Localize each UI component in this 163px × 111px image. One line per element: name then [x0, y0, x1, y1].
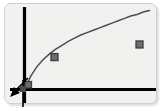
- figure-frame: [4, 3, 157, 104]
- plot-canvas: [5, 4, 157, 104]
- data-marker-mid: [51, 54, 58, 61]
- plot-svg: [5, 4, 157, 104]
- chart-thumbnail: [0, 0, 163, 111]
- data-marker-right: [136, 41, 143, 48]
- data-marker-origin: [25, 82, 32, 89]
